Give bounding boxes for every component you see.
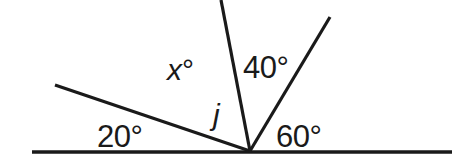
angle-label-20: 20° [97, 121, 142, 152]
ray-label-j: j [213, 100, 220, 130]
angle-label-40: 40° [243, 52, 288, 83]
angle-label-x-variable: x [167, 53, 182, 86]
degree-symbol-icon: ° [182, 53, 194, 86]
angle-label-60: 60° [276, 121, 321, 152]
angle-label-x: x° [167, 55, 194, 85]
angle-diagram: x° 40° j 20° 60° [0, 0, 471, 161]
diagram-canvas [0, 0, 471, 161]
ray-upper-left [55, 85, 250, 151]
